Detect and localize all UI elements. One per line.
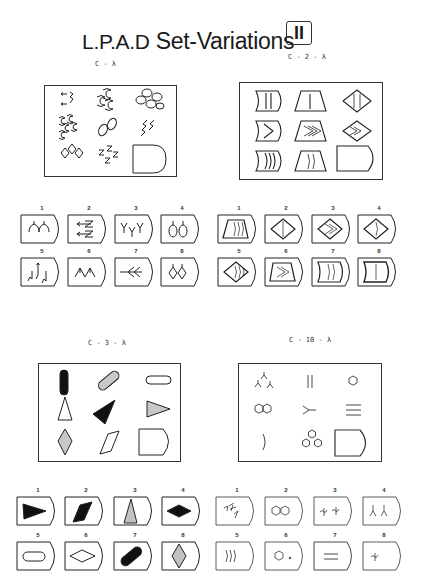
squiggle-icon xyxy=(362,541,406,571)
triangle-black-icon xyxy=(16,496,60,526)
diamond-arcs-icon xyxy=(217,257,261,287)
hexagons-icon xyxy=(264,496,308,526)
hexagon-dot-icon xyxy=(264,541,308,571)
answer-card[interactable]: 2 xyxy=(264,496,308,526)
answer-card[interactable]: 1 xyxy=(20,214,64,244)
zigzag-arrows-icon xyxy=(20,257,64,287)
forks-icon xyxy=(114,214,158,244)
problem-code-1: C - λ xyxy=(95,60,116,68)
problem-matrix-3 xyxy=(38,363,181,462)
answer-card[interactable]: 2 xyxy=(264,214,308,244)
answer-card[interactable]: 5 xyxy=(215,541,259,571)
problem-matrix-1 xyxy=(44,85,177,177)
title-prefix: L.P.A.D xyxy=(82,30,150,53)
answer-card[interactable]: 6 xyxy=(264,257,308,287)
answer-card[interactable]: 2 xyxy=(67,214,111,244)
pill-black-icon xyxy=(113,541,157,571)
problem-code-4: C - 10 - λ xyxy=(289,336,331,344)
set-number-badge: II xyxy=(286,21,312,45)
diamond-arc-icon xyxy=(357,214,401,244)
cat-heads-icon xyxy=(20,214,64,244)
twigs-icon xyxy=(215,496,259,526)
matrix-figures-icon xyxy=(45,86,178,178)
answer-card[interactable]: 7 xyxy=(114,257,158,287)
ovals-icon xyxy=(160,214,204,244)
answer-card[interactable]: 8 xyxy=(161,541,205,571)
arrows-zigzag-icon xyxy=(67,214,111,244)
diamond-black-icon xyxy=(161,496,205,526)
concave-rect-arcs-icon xyxy=(311,257,355,287)
answer-card[interactable]: 8 xyxy=(160,257,204,287)
answer-card[interactable]: 6 xyxy=(64,541,108,571)
pill-white-icon xyxy=(16,541,60,571)
answer-card[interactable]: 8 xyxy=(362,541,406,571)
answer-card[interactable]: 1 xyxy=(215,496,259,526)
answer-card[interactable]: 4 xyxy=(161,496,205,526)
answer-card[interactable]: 2 xyxy=(64,496,108,526)
matrix-figures-icon xyxy=(240,83,384,181)
double-lines-icon xyxy=(313,541,357,571)
arrowheads-icon xyxy=(67,257,111,287)
feathered-arrows-icon xyxy=(114,257,158,287)
answer-card[interactable]: 4 xyxy=(357,214,401,244)
answer-card[interactable]: 6 xyxy=(67,257,111,287)
answer-card[interactable]: 8 xyxy=(357,257,401,287)
problem-code-2: C - 2 - λ xyxy=(288,53,326,61)
answer-card[interactable]: 5 xyxy=(16,541,60,571)
diamond-chevron-icon xyxy=(311,214,355,244)
trapezoid-arcs-icon xyxy=(217,214,261,244)
matrix-figures-icon xyxy=(239,364,383,463)
answer-card[interactable]: 1 xyxy=(16,496,60,526)
arcs-icon xyxy=(215,541,259,571)
squiggles-icon xyxy=(313,496,357,526)
parallelogram-black-icon xyxy=(64,496,108,526)
triangle-striped-icon xyxy=(113,496,157,526)
answer-card[interactable]: 5 xyxy=(217,257,261,287)
problem-code-3: C - 3 - λ xyxy=(88,339,126,347)
concave-rect-line-icon xyxy=(357,257,401,287)
trapezoid-chevron-icon xyxy=(264,257,308,287)
answer-card[interactable]: 4 xyxy=(362,496,406,526)
page-title: L.P.A.D Set-Variations xyxy=(82,28,294,55)
answer-card[interactable]: 3 xyxy=(113,496,157,526)
title-suffix: Set-Variations xyxy=(150,28,295,54)
answer-card[interactable]: 7 xyxy=(113,541,157,571)
diamond-white-icon xyxy=(64,541,108,571)
answer-card[interactable]: 4 xyxy=(160,214,204,244)
answer-card[interactable]: 3 xyxy=(311,214,355,244)
diamonds-icon xyxy=(160,257,204,287)
problem-matrix-2 xyxy=(239,82,383,180)
answer-card[interactable]: 3 xyxy=(313,496,357,526)
answer-card[interactable]: 7 xyxy=(311,257,355,287)
answer-card[interactable]: 3 xyxy=(114,214,158,244)
y-forks-icon xyxy=(362,496,406,526)
matrix-figures-icon xyxy=(39,364,182,463)
answer-card[interactable]: 1 xyxy=(217,214,261,244)
problem-matrix-4 xyxy=(238,363,382,462)
diamond-striped-icon xyxy=(161,541,205,571)
diamond-line-icon xyxy=(264,214,308,244)
answer-card[interactable]: 6 xyxy=(264,541,308,571)
answer-card[interactable]: 7 xyxy=(313,541,357,571)
answer-card[interactable]: 5 xyxy=(20,257,64,287)
